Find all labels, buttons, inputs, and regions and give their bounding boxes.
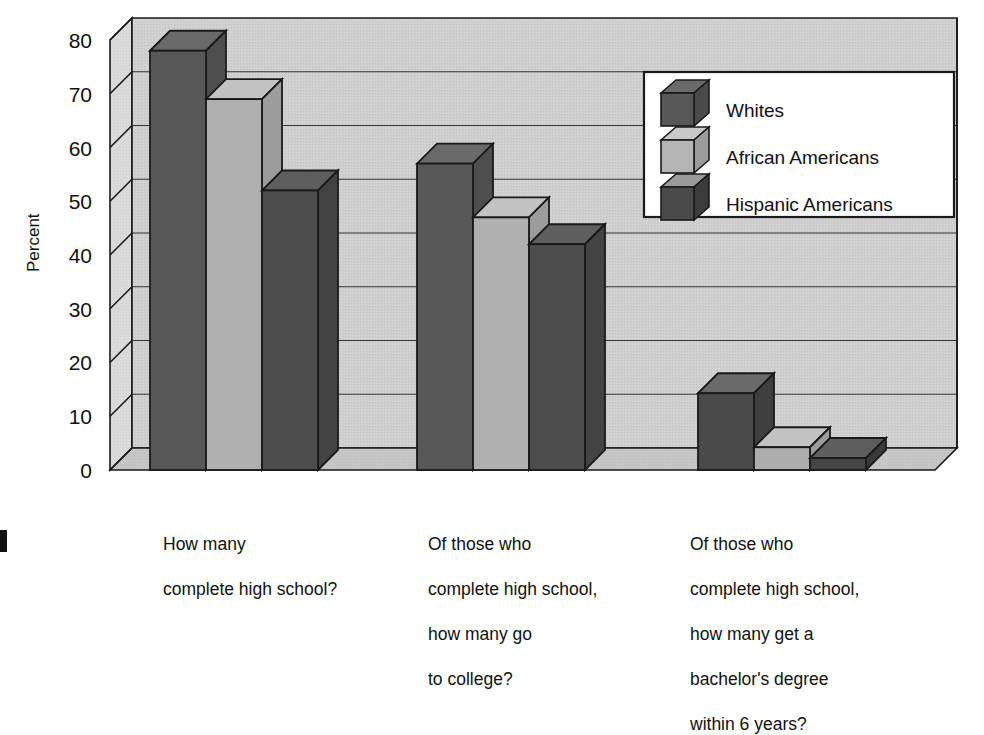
category-label-2: Of those who complete high school, how m… (428, 510, 597, 690)
category-label-3-line2: complete high school, (690, 579, 859, 599)
y-tick-0: 0 (52, 460, 92, 481)
y-tick-50: 50 (52, 191, 92, 212)
swatch-hispanic-americans (661, 174, 709, 220)
y-tick-60: 60 (52, 138, 92, 159)
y-tick-80: 80 (52, 30, 92, 51)
legend-label-hispanic-americans: Hispanic Americans (726, 195, 893, 214)
legend-label-african-americans: African Americans (726, 148, 879, 167)
y-tick-30: 30 (52, 299, 92, 320)
category-label-3-line3: how many get a (690, 624, 814, 644)
category-label-2-line1: Of those who (428, 534, 531, 554)
bar-g1-hispanic-americans (262, 171, 338, 471)
category-label-3: Of those who complete high school, how m… (690, 510, 859, 735)
bar-g2-hispanic-americans (529, 224, 605, 470)
category-label-3-line1: Of those who (690, 534, 793, 554)
category-label-2-line4: to college? (428, 669, 513, 689)
legend-label-whites: Whites (726, 101, 784, 120)
swatch-african-americans (661, 127, 709, 173)
category-label-3-line4: bachelor's degree (690, 669, 829, 689)
category-label-3-line5: within 6 years? (690, 714, 807, 734)
y-axis-title: Percent (24, 213, 44, 272)
y-tick-20: 20 (52, 352, 92, 373)
y-tick-40: 40 (52, 245, 92, 266)
category-label-1: How many complete high school? (163, 510, 337, 600)
category-label-2-line3: how many go (428, 624, 532, 644)
y-tick-10: 10 (52, 406, 92, 427)
category-label-1-line1: How many (163, 534, 246, 554)
swatch-whites (661, 80, 709, 126)
category-label-2-line2: complete high school, (428, 579, 597, 599)
y-tick-70: 70 (52, 84, 92, 105)
category-label-1-line2: complete high school? (163, 579, 337, 599)
page-edge-mark (0, 530, 7, 552)
